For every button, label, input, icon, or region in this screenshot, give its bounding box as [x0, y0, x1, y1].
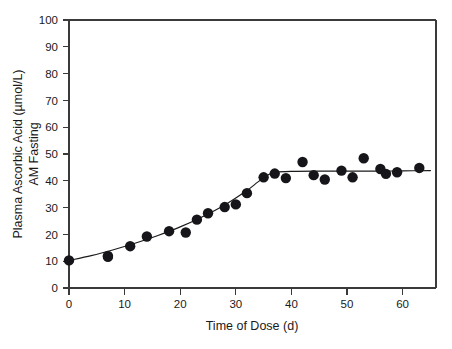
y-tick-label: 70 — [45, 95, 58, 107]
y-tick-label: 60 — [45, 121, 58, 133]
data-point — [320, 174, 330, 184]
data-point — [242, 188, 252, 198]
x-tick-label: 60 — [396, 298, 409, 310]
data-point — [192, 214, 202, 224]
data-point — [270, 168, 280, 178]
data-point — [359, 153, 369, 163]
x-tick-label: 50 — [341, 298, 354, 310]
data-point — [181, 227, 191, 237]
x-axis-title: Time of Dose (d) — [206, 319, 299, 333]
y-axis-title-line1: Plasma Ascorbic Acid (µmol/L) — [11, 69, 25, 238]
x-tick-label: 0 — [66, 298, 72, 310]
y-tick-label: 20 — [45, 229, 58, 241]
x-tick-label: 20 — [174, 298, 187, 310]
data-point — [392, 167, 402, 177]
y-tick-label: 80 — [45, 68, 58, 80]
x-tick-label: 40 — [285, 298, 298, 310]
y-tick-label: 40 — [45, 175, 58, 187]
data-point — [297, 157, 307, 167]
data-point — [231, 199, 241, 209]
data-point — [347, 172, 357, 182]
scatter-plot: 0 10 20 30 40 50 60 70 80 90 100 0 10 20 — [0, 0, 452, 349]
chart-figure: 0 10 20 30 40 50 60 70 80 90 100 0 10 20 — [0, 0, 452, 349]
x-tick-label: 10 — [118, 298, 131, 310]
data-point — [164, 226, 174, 236]
y-tick-label: 50 — [45, 148, 58, 160]
x-tick-label: 30 — [229, 298, 242, 310]
y-tick-label: 90 — [45, 41, 58, 53]
data-point — [125, 241, 135, 251]
data-point — [336, 165, 346, 175]
data-point — [220, 202, 230, 212]
data-point — [414, 163, 424, 173]
data-point — [103, 251, 113, 261]
y-tick-label: 100 — [39, 14, 58, 26]
data-point — [203, 208, 213, 218]
y-tick-label: 30 — [45, 202, 58, 214]
data-point — [308, 170, 318, 180]
data-point — [142, 231, 152, 241]
data-point — [281, 173, 291, 183]
data-point — [381, 169, 391, 179]
data-point — [64, 255, 74, 265]
y-tick-label: 10 — [45, 255, 58, 267]
y-axis-title-line2: AM Fasting — [27, 122, 41, 185]
data-point — [258, 172, 268, 182]
y-tick-label: 0 — [52, 282, 58, 294]
